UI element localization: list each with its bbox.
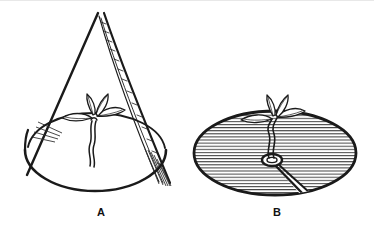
disc-center-hole-b bbox=[262, 154, 282, 166]
panel-a: A bbox=[25, 13, 171, 218]
panel-b-label: B bbox=[273, 206, 281, 218]
panel-a-label: A bbox=[97, 206, 105, 218]
diagram-canvas: A bbox=[0, 0, 374, 238]
panel-b: B bbox=[194, 95, 356, 218]
figure-root: A bbox=[0, 0, 374, 238]
